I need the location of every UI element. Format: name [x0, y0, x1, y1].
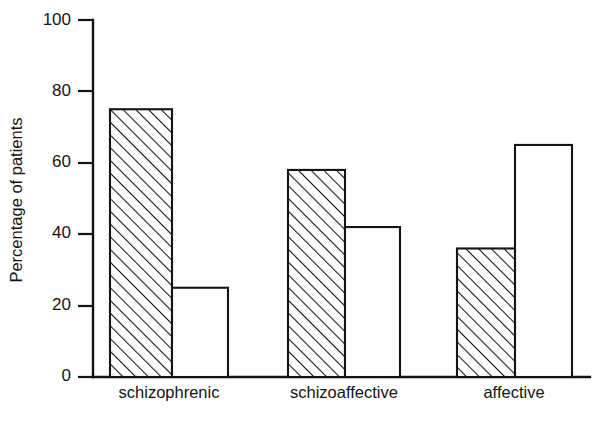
chart-canvas: Percentage of patients 100 80 60 40 20 0	[0, 0, 601, 421]
y-tick-label-20: 20	[52, 295, 71, 314]
bar-schizoaffective-open	[345, 227, 400, 377]
y-tick-label-40: 40	[52, 223, 71, 242]
y-tick-label-100: 100	[43, 10, 71, 29]
y-axis-label: Percentage of patients	[7, 117, 25, 282]
bar-chart-figure: Percentage of patients 100 80 60 40 20 0	[0, 0, 601, 421]
bar-affective-open	[515, 145, 572, 377]
bar-schizophrenic-open	[172, 288, 228, 377]
y-tick-label-80: 80	[52, 81, 71, 100]
x-category-label-schizoaffective: schizoaffective	[290, 383, 398, 401]
x-category-label-affective: affective	[483, 383, 544, 401]
y-tick-label-60: 60	[52, 152, 71, 171]
x-category-label-schizophrenic: schizophrenic	[119, 383, 220, 401]
y-tick-marks	[78, 20, 93, 377]
bar-schizophrenic-hatched	[110, 109, 172, 377]
bar-schizoaffective-hatched	[288, 170, 345, 377]
y-tick-label-0: 0	[62, 366, 71, 385]
y-tick-labels: 100 80 60 40 20 0	[43, 10, 71, 385]
bar-affective-hatched	[457, 248, 515, 377]
